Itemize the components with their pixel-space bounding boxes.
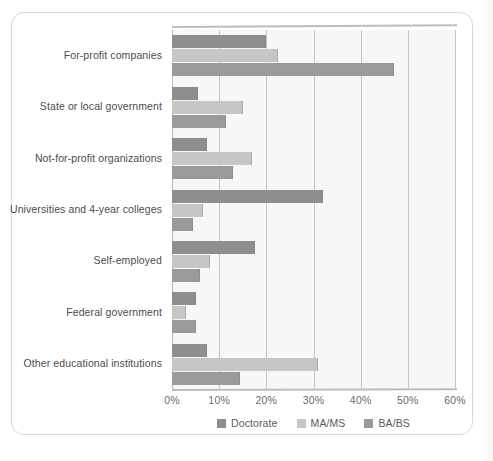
bar: [172, 372, 240, 385]
bar: [172, 190, 323, 203]
legend-item: BA/BS: [364, 417, 409, 429]
bar: [172, 166, 233, 179]
x-axis-tick-label: 30%: [291, 394, 337, 406]
y-axis-label: Federal government: [66, 306, 162, 318]
bar: [172, 218, 193, 231]
gridline-50pct: [408, 30, 409, 390]
bar: [172, 292, 196, 305]
y-axis-label: Universities and 4-year colleges: [10, 203, 162, 215]
legend-item: MA/MS: [297, 417, 346, 429]
x-axis-tick-label: 0%: [149, 394, 195, 406]
legend-swatch-icon: [297, 419, 306, 428]
bar: [172, 241, 255, 254]
x-axis-tick-label: 50%: [385, 394, 431, 406]
bar: [172, 320, 196, 333]
gridline-40pct: [361, 30, 362, 390]
legend-swatch-icon: [364, 419, 373, 428]
bar: [172, 138, 207, 151]
bar: [172, 63, 394, 76]
legend-label: Doctorate: [231, 417, 277, 429]
bar: [172, 101, 243, 114]
bar: [172, 344, 207, 357]
bar: [172, 204, 203, 217]
chart-legend: DoctorateMA/MSBA/BS: [172, 417, 455, 429]
bar: [172, 49, 278, 62]
bar: [172, 152, 252, 165]
x-axis-tick-label: 40%: [338, 394, 384, 406]
y-axis-label: State or local government: [40, 100, 162, 112]
x-axis-tick-label: 20%: [243, 394, 289, 406]
legend-swatch-icon: [217, 419, 226, 428]
plot-top-rule: [172, 24, 457, 28]
bar: [172, 87, 198, 100]
gridline-30pct: [314, 30, 315, 390]
grouped-bar-chart: For-profit companiesState or local gover…: [0, 0, 493, 461]
x-axis-tick-label: 60%: [432, 394, 478, 406]
bar: [172, 35, 266, 48]
scanned-page: For-profit companiesState or local gover…: [0, 0, 493, 461]
y-axis-label: Not-for-profit organizations: [35, 152, 162, 164]
legend-label: MA/MS: [311, 417, 346, 429]
bar: [172, 358, 318, 371]
y-axis-label: For-profit companies: [64, 49, 162, 61]
legend-item: Doctorate: [217, 417, 277, 429]
bar: [172, 255, 210, 268]
y-axis-label: Other educational institutions: [24, 357, 162, 369]
x-axis-tick-label: 10%: [196, 394, 242, 406]
legend-label: BA/BS: [378, 417, 409, 429]
bar: [172, 306, 186, 319]
gridline-20pct: [266, 30, 267, 390]
bar: [172, 269, 200, 282]
y-axis-label: Self-employed: [94, 254, 162, 266]
gridline-60pct: [455, 30, 456, 390]
bar: [172, 115, 226, 128]
gridline-10pct: [219, 30, 220, 390]
